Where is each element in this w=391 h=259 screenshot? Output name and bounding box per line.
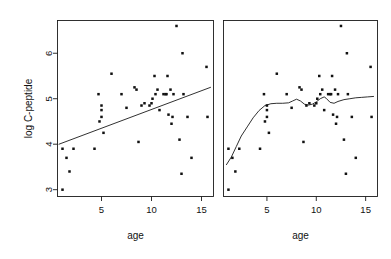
data-point bbox=[337, 93, 340, 96]
data-point bbox=[137, 141, 140, 144]
data-point bbox=[290, 107, 293, 110]
data-point bbox=[93, 148, 96, 151]
data-point bbox=[172, 93, 175, 96]
y-axis-title: log C-peptide bbox=[23, 78, 34, 138]
data-point bbox=[234, 170, 237, 173]
data-point bbox=[315, 102, 318, 105]
data-point bbox=[65, 157, 68, 160]
data-point bbox=[266, 116, 269, 119]
figure-background bbox=[0, 0, 391, 259]
data-point bbox=[166, 75, 169, 78]
data-point bbox=[264, 120, 267, 123]
data-point bbox=[170, 122, 173, 125]
data-point bbox=[150, 102, 153, 105]
x-tick-label: 15 bbox=[360, 204, 371, 215]
data-point bbox=[102, 132, 105, 135]
data-point bbox=[205, 66, 208, 69]
data-point bbox=[369, 66, 372, 69]
data-point bbox=[343, 138, 346, 141]
data-point bbox=[61, 148, 64, 151]
data-point bbox=[125, 107, 128, 110]
data-point bbox=[72, 148, 75, 151]
data-point bbox=[167, 113, 170, 116]
data-point bbox=[298, 86, 301, 89]
data-point bbox=[98, 120, 101, 123]
y-tick-label: 6 bbox=[43, 51, 54, 56]
data-point bbox=[100, 109, 103, 112]
data-point bbox=[336, 116, 339, 119]
data-point bbox=[181, 52, 184, 55]
data-point bbox=[148, 104, 151, 107]
data-point bbox=[323, 109, 326, 112]
data-point bbox=[305, 104, 308, 107]
y-tick-label: 4 bbox=[43, 142, 54, 147]
data-point bbox=[266, 109, 269, 112]
data-point bbox=[355, 157, 358, 160]
data-point bbox=[259, 148, 262, 151]
data-point bbox=[276, 72, 279, 75]
x-tick-label: 15 bbox=[196, 204, 207, 215]
data-point bbox=[135, 88, 138, 91]
data-point bbox=[154, 93, 157, 96]
data-point bbox=[313, 104, 316, 107]
data-point bbox=[158, 109, 161, 112]
data-point bbox=[319, 93, 322, 96]
data-point bbox=[97, 93, 100, 96]
data-point bbox=[186, 116, 189, 119]
data-point bbox=[351, 116, 354, 119]
data-point bbox=[140, 104, 143, 107]
data-point bbox=[165, 93, 168, 96]
data-point bbox=[346, 52, 349, 55]
data-point bbox=[182, 93, 185, 96]
data-point bbox=[266, 104, 269, 107]
data-point bbox=[370, 116, 373, 119]
data-point bbox=[285, 93, 288, 96]
data-point bbox=[318, 75, 321, 78]
data-point bbox=[308, 102, 311, 105]
data-point bbox=[268, 132, 271, 135]
data-point bbox=[153, 75, 156, 78]
data-point bbox=[133, 86, 136, 89]
data-point bbox=[330, 93, 333, 96]
y-tick-label: 3 bbox=[43, 187, 54, 192]
data-point bbox=[100, 116, 103, 119]
x-tick-label: 5 bbox=[264, 204, 269, 215]
data-point bbox=[331, 75, 334, 78]
x-axis-title: age bbox=[292, 230, 309, 241]
data-point bbox=[169, 88, 172, 91]
data-point bbox=[345, 173, 348, 176]
data-point bbox=[347, 93, 350, 96]
x-axis-title: age bbox=[127, 230, 144, 241]
data-point bbox=[178, 138, 181, 141]
x-tick-label: 10 bbox=[146, 204, 157, 215]
data-point bbox=[302, 141, 305, 144]
data-point bbox=[316, 97, 319, 100]
data-point bbox=[238, 148, 241, 151]
data-point bbox=[120, 93, 123, 96]
figure-canvas: 51015age3456log C-peptide 51015age bbox=[0, 0, 391, 259]
data-point bbox=[190, 157, 193, 160]
data-point bbox=[156, 88, 159, 91]
y-tick-label: 5 bbox=[43, 96, 54, 101]
data-point bbox=[335, 122, 338, 125]
data-point bbox=[100, 104, 103, 107]
x-tick-label: 5 bbox=[99, 204, 104, 215]
data-point bbox=[300, 88, 303, 91]
data-point bbox=[175, 25, 178, 28]
data-point bbox=[180, 173, 183, 176]
data-point bbox=[340, 25, 343, 28]
data-point bbox=[151, 97, 154, 100]
data-point bbox=[263, 93, 266, 96]
data-point bbox=[332, 113, 335, 116]
data-point bbox=[231, 157, 234, 160]
data-point bbox=[321, 88, 324, 91]
data-point bbox=[334, 88, 337, 91]
data-point bbox=[227, 148, 230, 151]
data-point bbox=[227, 188, 230, 191]
data-point bbox=[68, 170, 71, 173]
data-point bbox=[143, 102, 146, 105]
x-tick-label: 10 bbox=[311, 204, 322, 215]
data-point bbox=[171, 116, 174, 119]
data-point bbox=[206, 116, 209, 119]
data-point bbox=[110, 72, 113, 75]
